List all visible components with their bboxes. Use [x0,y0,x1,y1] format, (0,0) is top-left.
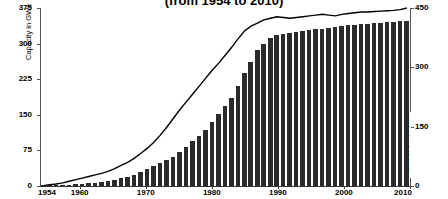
x-tick-mark [212,186,213,189]
x-tick-label: 2010 [394,188,412,197]
y-tick-label-right: 300 [415,63,448,71]
y-tick-mark-right [411,8,414,9]
y-tick-label-right: 0 [415,182,448,190]
x-tick-mark [344,186,345,189]
y-tick-mark-right [411,67,414,68]
chart-title: (from 1954 to 2010) [0,0,448,8]
y-tick-label-right: 450 [415,4,448,12]
y-tick-label-right: 150 [415,123,448,131]
x-tick-label: 1990 [269,188,287,197]
y-tick-label-left: 300 [0,40,32,48]
line-series-reactor-count [40,8,410,186]
x-tick-mark [278,186,279,189]
x-tick-mark [410,186,411,189]
y-tick-label-left: 150 [0,111,32,119]
x-tick-label: 2000 [335,188,353,197]
y-axis-left-label: Capacity in GWe [24,4,33,60]
y-tick-label-left: 75 [0,146,32,154]
x-tick-label: 1970 [137,188,155,197]
x-tick-label: 1980 [203,188,221,197]
y-tick-mark-right [411,127,414,128]
x-tick-mark [146,186,147,189]
y-tick-label-left: 0 [0,182,32,190]
chart-root: (from 1954 to 2010) Capacity in GWe Numb… [0,0,448,199]
x-axis-line [40,186,411,187]
y-tick-mark-left [37,186,40,187]
x-tick-label: 1960 [71,188,89,197]
x-tick-label: 1954 [38,188,56,197]
y-tick-label-left: 375 [0,4,32,12]
y-tick-label-left: 225 [0,75,32,83]
x-tick-mark [80,186,81,189]
y-tick-mark-right [411,186,414,187]
